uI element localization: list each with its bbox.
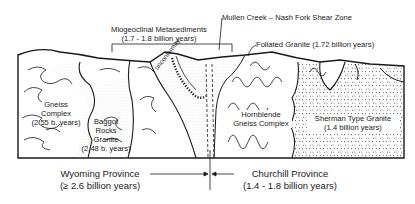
hornblende-label: Hornblende Gneiss Complex [230,110,292,128]
hornblende-line2: Gneiss Complex [230,119,292,128]
baggot-line1: Baggot [80,117,132,126]
shear-zone-label: Mullen Creek – Nash Fork Shear Zone [222,13,352,22]
wyoming-name: Wyoming Province [50,168,150,180]
sherman-granite-label: Sherman Type Granite (1.4 billion years) [308,114,398,132]
baggot-line4: (2.48 b. years) [80,144,132,153]
baggot-line3: Granite [80,135,132,144]
churchill-age: (1.4 - 1.8 billion years) [232,180,348,192]
churchill-province-label: Churchill Province (1.4 - 1.8 billion ye… [232,168,348,192]
wyoming-province-label: Wyoming Province (≥ 2.6 billion years) [50,168,150,192]
foliated-granite-label: Foliated Granite (1.72 billion years) [256,40,374,49]
gneiss-line3: (2.55 b. years) [28,118,84,127]
sherman-line2: (1.4 billion years) [308,123,398,132]
churchill-name: Churchill Province [232,168,348,180]
gneiss-complex-label: Gneiss Complex (2.55 b. years) [28,100,84,127]
sherman-line1: Sherman Type Granite [308,114,398,123]
wyoming-age: (≥ 2.6 billion years) [50,180,150,192]
baggot-rocks-label: Baggot Rocks Granite (2.48 b. years) [80,117,132,153]
miogeoclinal-name: Miogeoclinal Metasediments [103,25,215,34]
hornblende-line1: Hornblende [230,110,292,119]
gneiss-line2: Complex [28,109,84,118]
baggot-line2: Rocks [80,126,132,135]
miogeoclinal-label: Miogeoclinal Metasediments (1.7 - 1.8 bi… [103,25,215,43]
gneiss-line1: Gneiss [28,100,84,109]
miogeoclinal-age: (1.7 - 1.8 billion years) [103,34,215,43]
